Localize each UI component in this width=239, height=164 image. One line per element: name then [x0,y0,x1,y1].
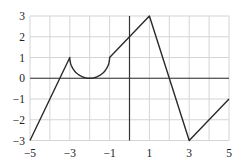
y-tick-label: 0 [19,72,25,84]
y-tick-label: 2 [19,31,25,43]
x-tick-label: −1 [103,147,115,159]
y-tick-label: −2 [13,114,25,126]
y-tick-labels: −3−2−10123 [13,10,26,147]
x-tick-label: 3 [186,147,192,159]
x-tick-label: 5 [226,147,232,159]
y-tick-label: −3 [13,135,25,147]
x-tick-label: −5 [24,147,36,159]
x-tick-label: 1 [147,147,153,159]
y-tick-label: 1 [19,52,25,64]
y-tick-label: 3 [19,10,25,22]
function-graph: −5−3−1135 −3−2−10123 [0,0,239,164]
y-tick-label: −1 [13,93,25,105]
x-tick-labels: −5−3−1135 [24,147,232,159]
x-tick-label: −3 [64,147,76,159]
